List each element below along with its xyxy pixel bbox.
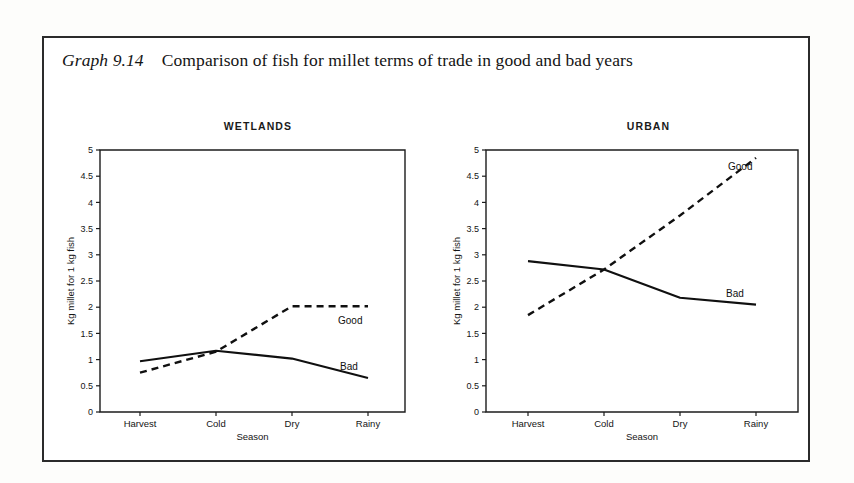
y-tick-label: 4.5 [80, 171, 93, 181]
chart-title-wetlands: WETLANDS [56, 120, 416, 132]
series-label-bad: Bad [340, 361, 358, 372]
y-tick-label: 0 [88, 407, 93, 417]
x-tick-label: Cold [594, 418, 614, 429]
series-line-good [528, 158, 756, 315]
chart-title-urban: URBAN [446, 120, 811, 132]
x-tick-label: Dry [673, 418, 688, 429]
y-tick-label: 1.5 [466, 329, 479, 339]
y-tick-label: 5 [474, 145, 479, 155]
y-axis-title: Kg millet for 1 kg fish [451, 237, 462, 325]
y-tick-label: 3 [474, 250, 479, 260]
y-axis-title: Kg millet for 1 kg fish [65, 237, 76, 325]
chart-plot-wetlands: 00.511.522.533.544.55HarvestColdDryRainy… [56, 138, 416, 450]
y-tick-label: 1 [474, 355, 479, 365]
series-label-good: Good [338, 315, 362, 326]
page-canvas: Graph 9.14Comparison of fish for millet … [0, 0, 854, 483]
chart-panel-urban: URBAN 00.511.522.533.544.55HarvestColdDr… [446, 120, 811, 450]
y-tick-label: 3.5 [80, 224, 93, 234]
figure-caption: Graph 9.14Comparison of fish for millet … [62, 50, 802, 80]
y-tick-label: 2 [88, 302, 93, 312]
x-tick-label: Harvest [512, 418, 545, 429]
x-tick-label: Cold [206, 418, 226, 429]
y-tick-label: 3 [88, 250, 93, 260]
y-tick-label: 4 [474, 198, 479, 208]
y-tick-label: 1 [88, 355, 93, 365]
series-line-bad [140, 351, 368, 378]
x-axis-title: Season [236, 431, 268, 442]
series-label-good: Good [728, 161, 752, 172]
caption-label: Graph 9.14 [62, 50, 144, 70]
caption-text: Comparison of fish for millet terms of t… [162, 50, 633, 70]
y-tick-label: 1.5 [80, 329, 93, 339]
x-tick-label: Rainy [356, 418, 381, 429]
y-tick-label: 5 [88, 145, 93, 155]
y-tick-label: 0 [474, 407, 479, 417]
y-tick-label: 4.5 [466, 171, 479, 181]
y-tick-label: 2 [474, 302, 479, 312]
y-tick-label: 2.5 [80, 276, 93, 286]
chart-plot-urban: 00.511.522.533.544.55HarvestColdDryRainy… [446, 138, 811, 450]
x-tick-label: Dry [285, 418, 300, 429]
chart-panel-wetlands: WETLANDS 00.511.522.533.544.55HarvestCol… [56, 120, 416, 450]
y-tick-label: 2.5 [466, 276, 479, 286]
y-tick-label: 4 [88, 198, 93, 208]
y-tick-label: 0.5 [80, 381, 93, 391]
x-tick-label: Rainy [744, 418, 769, 429]
y-tick-label: 0.5 [466, 381, 479, 391]
series-line-bad [528, 261, 756, 305]
x-tick-label: Harvest [124, 418, 157, 429]
y-tick-label: 3.5 [466, 224, 479, 234]
x-axis-title: Season [626, 431, 658, 442]
series-line-good [140, 306, 368, 373]
series-label-bad: Bad [726, 288, 744, 299]
